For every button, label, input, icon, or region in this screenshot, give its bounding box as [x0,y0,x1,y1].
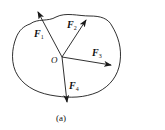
diagram-canvas [0,0,165,130]
force-diagram: F1 F2 F3 F4 O (a) [0,0,165,130]
label-f4: F4 [69,81,79,92]
label-f1: F1 [34,29,44,40]
label-f2: F2 [67,20,77,31]
force-arrow-f4 [62,57,67,102]
force-arrow-f3 [62,57,111,65]
figure-caption: (a) [56,114,66,123]
label-f3: F3 [92,48,102,59]
origin-label: O [51,56,58,65]
